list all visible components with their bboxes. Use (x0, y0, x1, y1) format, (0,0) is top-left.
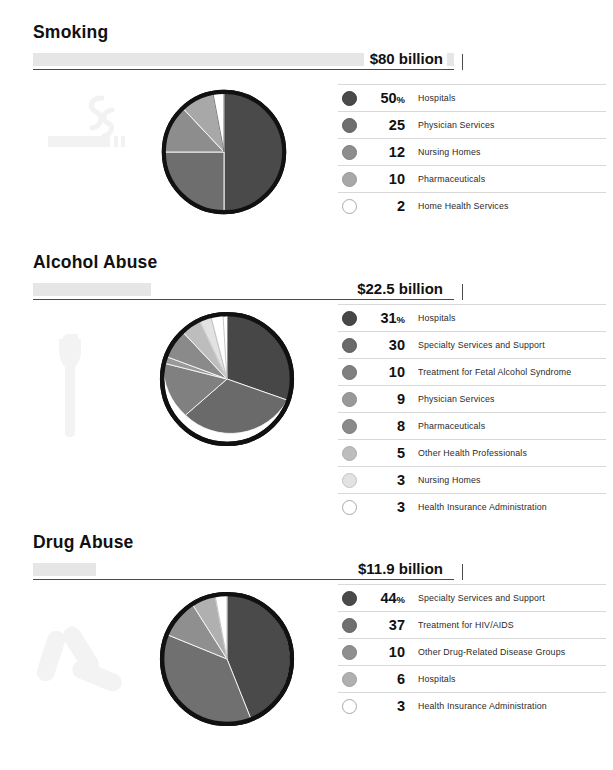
legend-item[interactable]: 10 Other Drug-Related Disease Groups (338, 638, 606, 665)
legend-label: Hospitals (418, 674, 456, 684)
legend-item[interactable]: 9 Physician Services (338, 385, 606, 412)
infographic-page: Smoking $80 billion (0, 0, 613, 770)
legend-swatch (342, 338, 357, 353)
bar-baseline (33, 69, 454, 70)
legend-swatch (342, 446, 357, 461)
legend-swatch (342, 500, 357, 515)
legend-item[interactable]: 37 Treatment for HIV/AIDS (338, 611, 606, 638)
legend-item[interactable]: 30 Specialty Services and Support (338, 331, 606, 358)
legend-swatch (342, 618, 357, 633)
section-title: Smoking (33, 22, 108, 43)
legend-swatch (342, 672, 357, 687)
bar-fill (33, 283, 151, 296)
legend-item[interactable]: 31% Hospitals (338, 304, 606, 331)
legend-item[interactable]: 3 Nursing Homes (338, 466, 606, 493)
legend-swatch (342, 91, 357, 106)
cigarette-icon (40, 90, 140, 172)
legend-value: 25 (363, 117, 405, 133)
legend-value: 50% (363, 90, 405, 106)
bar-baseline (33, 299, 454, 300)
legend-value: 3 (363, 499, 405, 515)
legend-value: 6 (363, 671, 405, 687)
section-title: Alcohol Abuse (33, 252, 157, 273)
legend-item[interactable]: 2 Home Health Services (338, 192, 606, 219)
section-title: Drug Abuse (33, 532, 134, 553)
legend-swatch (342, 419, 357, 434)
legend-label: Home Health Services (418, 201, 509, 211)
legend-label: Hospitals (418, 313, 456, 323)
legend-label: Pharmaceuticals (418, 174, 485, 184)
legend-label: Nursing Homes (418, 147, 481, 157)
legend-label: Specialty Services and Support (418, 593, 545, 603)
magnitude-bar-alcohol: $22.5 billion (33, 281, 463, 303)
legend-label: Other Health Professionals (418, 448, 527, 458)
legend-value: 8 (363, 418, 405, 434)
bar-fill (33, 563, 96, 576)
legend-value: 10 (363, 171, 405, 187)
legend-label: Health Insurance Administration (418, 701, 547, 711)
legend-value: 10 (363, 644, 405, 660)
bar-end-tick (462, 284, 463, 300)
legend-item[interactable]: 10 Pharmaceuticals (338, 165, 606, 192)
total-amount-label: $80 billion (364, 50, 447, 67)
magnitude-bar-drug: $11.9 billion (33, 561, 463, 583)
legend-value: 12 (363, 144, 405, 160)
bar-baseline (33, 579, 454, 580)
legend-label: Other Drug-Related Disease Groups (418, 647, 565, 657)
legend-item[interactable]: 3 Health Insurance Administration (338, 493, 606, 520)
legend-swatch (342, 145, 357, 160)
legend-swatch (342, 645, 357, 660)
bar-end-tick (462, 54, 463, 70)
magnitude-bar-smoking: $80 billion (33, 51, 463, 73)
legend-swatch (342, 199, 357, 214)
total-amount-label: $22.5 billion (351, 280, 447, 297)
legend-item[interactable]: 50% Hospitals (338, 84, 606, 111)
legend-swatch (342, 591, 357, 606)
legend-value: 3 (363, 472, 405, 488)
pie-chart-smoking (160, 88, 288, 220)
legend-item[interactable]: 25 Physician Services (338, 111, 606, 138)
legend-label: Physician Services (418, 120, 495, 130)
legend-value: 9 (363, 391, 405, 407)
legend-swatch (342, 699, 357, 714)
legend-label: Nursing Homes (418, 475, 481, 485)
legend-swatch (342, 392, 357, 407)
legend-item[interactable]: 5 Other Health Professionals (338, 439, 606, 466)
legend-value: 37 (363, 617, 405, 633)
legend-item[interactable]: 10 Treatment for Fetal Alcohol Syndrome (338, 358, 606, 385)
pie-chart-drug (158, 590, 296, 732)
legend-item[interactable]: 12 Nursing Homes (338, 138, 606, 165)
legend-item[interactable]: 6 Hospitals (338, 665, 606, 692)
legend-item[interactable]: 8 Pharmaceuticals (338, 412, 606, 439)
legend-label: Specialty Services and Support (418, 340, 545, 350)
legend-value: 2 (363, 198, 405, 214)
legend-label: Health Insurance Administration (418, 502, 547, 512)
legend-swatch (342, 365, 357, 380)
total-amount-label: $11.9 billion (352, 560, 447, 577)
legend-swatch (342, 172, 357, 187)
legend-item[interactable]: 44% Specialty Services and Support (338, 584, 606, 611)
legend-smoking: 50% Hospitals 25 Physician Services 12 N… (338, 84, 606, 219)
bar-end-tick (462, 564, 463, 580)
legend-drug: 44% Specialty Services and Support 37 Tr… (338, 584, 606, 719)
legend-swatch (342, 118, 357, 133)
bottle-icon (44, 330, 100, 442)
legend-value: 31% (363, 310, 405, 326)
legend-label: Treatment for Fetal Alcohol Syndrome (418, 367, 571, 377)
legend-value: 3 (363, 698, 405, 714)
pie-chart-alcohol (158, 310, 296, 452)
legend-item[interactable]: 3 Health Insurance Administration (338, 692, 606, 719)
legend-value: 44% (363, 590, 405, 606)
legend-alcohol: 31% Hospitals 30 Specialty Services and … (338, 304, 606, 520)
legend-label: Physician Services (418, 394, 495, 404)
legend-value: 5 (363, 445, 405, 461)
legend-swatch (342, 473, 357, 488)
legend-label: Pharmaceuticals (418, 421, 485, 431)
pills-icon (32, 622, 142, 712)
legend-value: 30 (363, 337, 405, 353)
legend-swatch (342, 311, 357, 326)
legend-label: Treatment for HIV/AIDS (418, 620, 514, 630)
legend-label: Hospitals (418, 93, 456, 103)
legend-value: 10 (363, 364, 405, 380)
